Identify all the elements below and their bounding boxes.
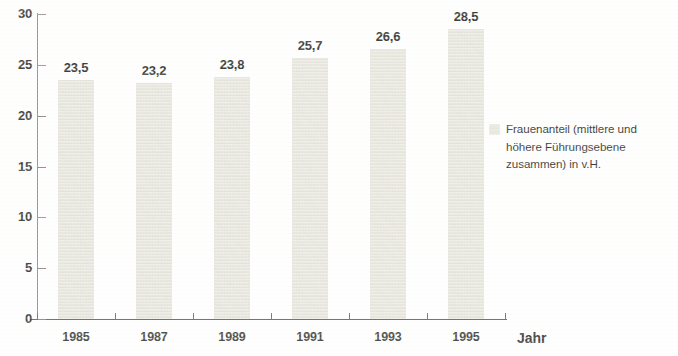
y-axis-tick-label: 15 <box>2 159 32 174</box>
y-axis-tick-label: 0 <box>2 311 32 326</box>
x-axis-category-label: 1991 <box>275 330 345 344</box>
bar-value-label: 25,7 <box>280 38 340 53</box>
bar <box>448 29 484 319</box>
bar-value-label: 23,8 <box>202 57 262 72</box>
x-axis-tick <box>505 313 506 320</box>
chart-legend: Frauenanteil (mittlere und höhere Führun… <box>489 120 678 173</box>
x-axis-category-label: 1989 <box>197 330 267 344</box>
bar <box>292 58 328 319</box>
bar-value-label: 23,5 <box>46 60 106 75</box>
bar <box>214 77 250 319</box>
bar <box>136 83 172 319</box>
y-axis-tick-label: 10 <box>2 209 32 224</box>
plot-area: 23,523,223,825,726,628,5 <box>37 14 505 319</box>
y-axis-tick-label: 30 <box>2 6 32 21</box>
y-axis-tick-label: 20 <box>2 108 32 123</box>
y-axis-tick-label: 5 <box>2 260 32 275</box>
x-axis-category-label: 1987 <box>119 330 189 344</box>
x-axis-title: Jahr <box>517 330 547 346</box>
x-axis-category-label: 1985 <box>41 330 111 344</box>
bar-value-label: 23,2 <box>124 63 184 78</box>
y-axis-tick-label: 25 <box>2 57 32 72</box>
bar <box>370 49 406 319</box>
legend-swatch-icon <box>489 124 500 135</box>
x-axis-line <box>30 319 507 320</box>
bar-value-label: 26,6 <box>358 29 418 44</box>
y-axis-tick-label-wrap: 0 <box>0 311 32 327</box>
y-axis-tick <box>38 319 46 320</box>
x-axis-category-label: 1995 <box>431 330 501 344</box>
bar-chart: 051015202530 23,523,223,825,726,628,5 19… <box>0 0 678 356</box>
y-axis-tick-label-wrap: 20 <box>0 108 32 124</box>
y-axis-tick-label-wrap: 25 <box>0 57 32 73</box>
y-axis-tick-label-wrap: 5 <box>0 260 32 276</box>
bar <box>58 80 94 319</box>
y-axis-tick-label-wrap: 15 <box>0 159 32 175</box>
y-axis-tick-label-wrap: 30 <box>0 6 32 22</box>
x-axis-category-label: 1993 <box>353 330 423 344</box>
bar-value-label: 28,5 <box>436 9 496 24</box>
y-axis-tick-label-wrap: 10 <box>0 209 32 225</box>
legend-label: Frauenanteil (mittlere und höhere Führun… <box>506 120 637 173</box>
